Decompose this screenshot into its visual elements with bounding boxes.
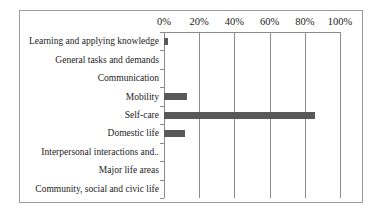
bar — [164, 38, 168, 45]
bar — [164, 93, 187, 100]
x-tick-label: 40% — [225, 16, 244, 27]
plot-area — [164, 32, 340, 198]
category-label: Major life areas — [99, 165, 159, 175]
category-label: Domestic life — [108, 128, 159, 138]
x-tick-label: 60% — [260, 16, 279, 27]
x-tick-label: 100% — [328, 16, 353, 27]
category-label: Self-care — [125, 110, 159, 120]
category-label: Learning and applying knowledge — [29, 36, 159, 46]
y-tick-mark — [160, 198, 164, 199]
y-tick-mark — [160, 161, 164, 162]
x-tick-label: 0% — [157, 16, 171, 27]
y-tick-mark — [160, 69, 164, 70]
x-tick-label: 20% — [190, 16, 209, 27]
x-axis-line — [164, 32, 340, 33]
category-label: Mobility — [126, 92, 159, 102]
y-tick-mark — [160, 180, 164, 181]
y-tick-mark — [160, 124, 164, 125]
category-label: General tasks and demands — [55, 55, 159, 65]
category-label: Community, social and civic life — [35, 184, 159, 194]
y-tick-mark — [160, 87, 164, 88]
category-label: Interpersonal interactions and.. — [41, 147, 159, 157]
y-tick-mark — [160, 143, 164, 144]
y-tick-mark — [160, 32, 164, 33]
x-tick-label: 80% — [295, 16, 314, 27]
y-tick-mark — [160, 50, 164, 51]
y-tick-mark — [160, 106, 164, 107]
category-label: Communication — [98, 73, 159, 83]
gridline — [340, 32, 341, 198]
bar — [164, 112, 315, 119]
bar — [164, 130, 185, 137]
